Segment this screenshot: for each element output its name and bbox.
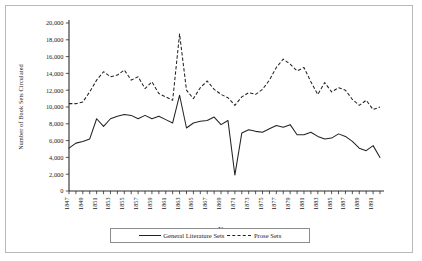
- series-line-general-literature-sets: [69, 95, 380, 175]
- x-tick-label: 1879: [284, 198, 291, 210]
- series-line-prose-sets: [69, 34, 380, 110]
- x-tick-label: 1863: [174, 198, 181, 210]
- x-tick-label: 1887: [339, 198, 346, 210]
- y-tick-label: 14,000: [46, 70, 64, 77]
- x-tick-label: 1891: [367, 198, 374, 210]
- x-tick-label: 1883: [312, 198, 319, 210]
- x-tick-label: 1871: [229, 198, 236, 210]
- x-tick-label: 1885: [326, 198, 333, 210]
- x-tick-label: 1873: [243, 198, 250, 210]
- x-tick-label: 1875: [257, 198, 264, 210]
- y-tick-label: 10,000: [46, 103, 64, 110]
- y-tick-label: 0: [60, 187, 63, 194]
- x-tick-label: 1857: [132, 198, 139, 210]
- y-tick-label: 6,000: [49, 137, 63, 144]
- x-tick-label: 1855: [118, 198, 125, 210]
- y-tick-label: 16,000: [46, 53, 64, 60]
- x-tick-label: 1853: [104, 198, 111, 210]
- x-tick-label: 1865: [187, 198, 194, 210]
- chart-legend: General Literature Sets Prose Sets: [110, 228, 310, 243]
- x-tick-label: 1877: [270, 198, 277, 210]
- y-tick-label: 4,000: [49, 154, 63, 161]
- legend-item-general-literature-sets: General Literature Sets: [139, 232, 225, 239]
- plot-area: 02,0004,0006,0008,00010,00012,00014,0001…: [6, 6, 412, 252]
- y-tick-label: 8,000: [49, 120, 63, 127]
- y-tick-label: 18,000: [46, 36, 64, 43]
- x-tick-label: 1851: [91, 198, 98, 210]
- x-tick-label: 1847: [63, 198, 70, 210]
- x-tick-label: 1861: [160, 198, 167, 210]
- legend-swatch-dashed-icon: [227, 235, 251, 236]
- x-tick-label: 1849: [77, 198, 84, 210]
- y-axis-title: Number of Book Sets Circulated: [17, 63, 24, 149]
- y-tick-label: 12,000: [46, 87, 64, 94]
- x-tick-label: 1881: [298, 198, 305, 210]
- line-chart-svg: 02,0004,0006,0008,00010,00012,00014,0001…: [6, 6, 412, 252]
- legend-swatch-solid-icon: [139, 235, 161, 236]
- legend-label-general-literature-sets: General Literature Sets: [163, 232, 224, 239]
- chart-figure: 02,0004,0006,0008,00010,00012,00014,0001…: [5, 5, 413, 253]
- y-tick-label: 2,000: [49, 171, 63, 178]
- x-tick-label: 1889: [353, 198, 360, 210]
- legend-label-prose-sets: Prose Sets: [254, 232, 281, 239]
- legend-item-prose-sets: Prose Sets: [227, 232, 281, 239]
- y-tick-label: 20,000: [46, 19, 64, 26]
- x-tick-label: 1869: [215, 198, 222, 210]
- x-tick-label: 1867: [201, 198, 208, 210]
- x-tick-label: 1859: [146, 198, 153, 210]
